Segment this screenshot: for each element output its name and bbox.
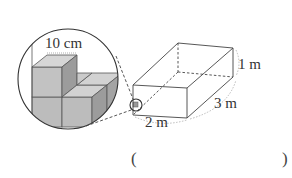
answer-close-paren: ) [282, 150, 288, 167]
magnifier-label: 10 cm [45, 36, 82, 51]
height-label: 1 m [238, 57, 261, 72]
zoom-connector-top [116, 56, 133, 99]
depth-label: 3 m [214, 96, 237, 111]
diagram-canvas [0, 0, 292, 178]
answer-open-paren: ( [131, 150, 137, 167]
width-label: 2 m [145, 115, 168, 130]
